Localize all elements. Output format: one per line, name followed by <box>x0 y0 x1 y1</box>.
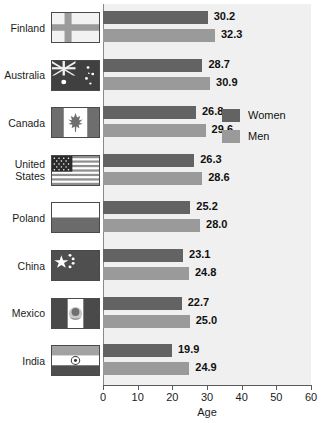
bar-men <box>103 77 210 90</box>
bar-men <box>103 315 190 328</box>
bar-women <box>103 344 172 357</box>
bar-women <box>103 106 196 119</box>
bar-value-women: 30.2 <box>214 10 235 23</box>
chart-row: Poland 25.228.0 <box>0 194 323 241</box>
x-axis-tick-label: 40 <box>227 391 257 403</box>
flag-finland-icon <box>51 12 100 43</box>
bar-men <box>103 267 189 280</box>
bar-value-women: 22.7 <box>188 296 209 309</box>
bar-men <box>103 172 202 185</box>
bar-men <box>103 29 215 42</box>
flag-mexico-icon <box>51 298 100 329</box>
chart-row: Australia 28.730.9 <box>0 52 323 99</box>
bar-value-men: 28.6 <box>208 171 229 184</box>
x-axis-tick-label: 60 <box>296 391 323 403</box>
country-label: Canada <box>0 99 45 146</box>
x-axis-tick-label: 20 <box>157 391 187 403</box>
country-label: Mexico <box>0 290 45 337</box>
bar-value-women: 28.7 <box>208 58 229 71</box>
bar-men <box>103 219 200 232</box>
bar-value-women: 23.1 <box>189 248 210 261</box>
x-axis-tick-label: 30 <box>192 391 222 403</box>
legend: Women Men <box>222 106 286 148</box>
legend-item-women: Women <box>222 106 286 124</box>
bar-value-women: 26.3 <box>200 153 221 166</box>
country-label: Finland <box>0 4 45 51</box>
x-axis-tick <box>103 385 104 390</box>
bar-women <box>103 11 208 24</box>
chart-row: China 23.124.8 <box>0 242 323 289</box>
country-label: Australia <box>0 52 45 99</box>
x-axis-tick <box>172 385 173 390</box>
bar-value-men: 28.0 <box>206 218 227 231</box>
chart-row: United States 26.328.6 <box>0 147 323 194</box>
x-axis-tick <box>207 385 208 390</box>
x-axis-tick <box>311 385 312 390</box>
flag-australia-icon <box>51 60 100 91</box>
bar-value-men: 32.3 <box>221 28 242 41</box>
country-label: India <box>0 337 45 384</box>
x-axis-tick-label: 10 <box>123 391 153 403</box>
chart-row: Finland 30.232.3 <box>0 4 323 51</box>
chart-row: Mexico 22.725.0 <box>0 290 323 337</box>
chart-row: India 19.924.9 <box>0 337 323 384</box>
x-axis-tick-label: 0 <box>88 391 118 403</box>
bar-value-men: 30.9 <box>216 76 237 89</box>
country-label: China <box>0 242 45 289</box>
legend-label-women: Women <box>248 109 286 121</box>
bar-women <box>103 249 183 262</box>
bar-chart: Finland 30.232.3Australia 28.730.9Canada <box>0 0 323 423</box>
bar-women <box>103 59 202 72</box>
country-label: United States <box>0 147 45 194</box>
country-label: Poland <box>0 194 45 241</box>
bar-women <box>103 201 190 214</box>
bar-men <box>103 124 206 137</box>
x-axis-tick <box>276 385 277 390</box>
bar-value-men: 24.8 <box>195 266 216 279</box>
flag-india-icon <box>51 345 100 376</box>
legend-swatch-women <box>222 109 240 122</box>
x-axis-title: Age <box>103 406 311 418</box>
legend-label-men: Men <box>248 130 269 142</box>
bar-men <box>103 362 189 375</box>
bar-value-men: 24.9 <box>195 361 216 374</box>
bar-value-women: 19.9 <box>178 343 199 356</box>
x-axis-tick <box>242 385 243 390</box>
bar-value-women: 25.2 <box>196 200 217 213</box>
bar-value-men: 25.0 <box>196 314 217 327</box>
bar-women <box>103 297 182 310</box>
x-axis-tick-label: 50 <box>261 391 291 403</box>
legend-swatch-men <box>222 130 240 143</box>
flag-usa-icon <box>51 155 100 186</box>
bar-women <box>103 154 194 167</box>
flag-china-icon <box>51 250 100 281</box>
legend-item-men: Men <box>222 127 286 145</box>
flag-poland-icon <box>51 202 100 233</box>
flag-canada-icon <box>51 107 100 138</box>
x-axis-tick <box>138 385 139 390</box>
bar-value-women: 26.8 <box>202 105 223 118</box>
